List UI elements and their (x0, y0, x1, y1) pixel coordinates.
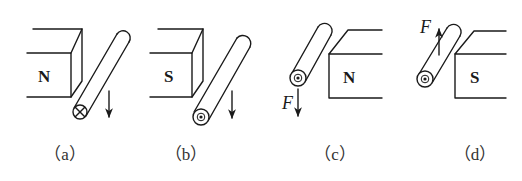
magnet-pole-label: S (470, 68, 479, 87)
magnet-block (27, 29, 82, 97)
current-out-of-page-icon (296, 76, 299, 79)
panel-c: N F （c） (281, 23, 382, 164)
caption-b: （b） (165, 145, 208, 164)
magnet-pole-label: N (38, 67, 51, 86)
magnet-block (150, 29, 203, 97)
magnet-pole-label: S (164, 67, 173, 86)
caption-d: （d） (454, 145, 497, 164)
panel-a: N （a） (27, 29, 130, 164)
current-out-of-page-icon (199, 115, 202, 118)
magnet-block (329, 30, 382, 98)
diagram-canvas: N （a） S （b） (0, 0, 522, 181)
panel-b: S （b） (150, 29, 251, 164)
panel-d: S F （d） (417, 17, 506, 164)
caption-c: （c） (314, 145, 356, 164)
conductor-rod (193, 36, 251, 125)
conductor-rod (290, 23, 332, 86)
current-out-of-page-icon (423, 77, 426, 80)
force-label: F (419, 17, 432, 37)
magnet-block (455, 31, 506, 98)
force-label: F (281, 93, 294, 113)
magnet-pole-label: N (343, 68, 356, 87)
caption-a: （a） (44, 145, 86, 164)
